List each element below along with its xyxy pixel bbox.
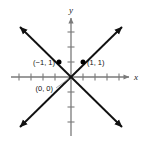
y-axis-label: y <box>68 5 73 15</box>
point-marker-one-one <box>81 60 86 65</box>
graph-figure: x y (−1, 1) (1, 1) (0, 0) <box>0 0 146 147</box>
label-point-negative-one-one: (−1, 1) <box>33 58 55 67</box>
coordinate-plane-svg: x y (−1, 1) (1, 1) (0, 0) <box>0 0 146 147</box>
label-point-origin: (0, 0) <box>35 84 53 93</box>
point-marker-negative-one-one <box>57 60 62 65</box>
x-axis-label: x <box>133 72 138 82</box>
label-point-one-one: (1, 1) <box>87 58 105 67</box>
